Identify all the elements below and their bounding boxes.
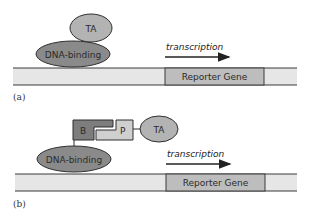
transcription-activator-a: TA [70, 14, 112, 42]
caption-a: (a) [13, 92, 25, 102]
panel-a: Reporter Gene DNA-binding TA transcripti… [13, 14, 297, 102]
dna-binding-label-b: DNA-binding [46, 155, 102, 165]
transcription-arrow-b: transcription [166, 149, 230, 164]
dna-binding-domain-a: DNA-binding [36, 41, 110, 67]
two-hybrid-diagram: Reporter Gene DNA-binding TA transcripti… [0, 0, 312, 217]
ta-label-b: TA [153, 125, 166, 135]
dna-binding-domain-b: DNA-binding [37, 146, 111, 172]
reporter-gene-b: Reporter Gene [166, 174, 265, 191]
transcription-label-a: transcription [166, 42, 224, 52]
caption-b: (b) [13, 199, 26, 209]
reporter-gene-a: Reporter Gene [165, 68, 264, 85]
ta-label-a: TA [85, 24, 98, 34]
transcription-activator-b: TA [140, 116, 178, 142]
reporter-gene-label-b: Reporter Gene [183, 178, 249, 188]
p-label: P [120, 126, 126, 136]
b-label: B [80, 126, 86, 136]
panel-b: Reporter Gene DNA-binding B P TA transcr… [13, 116, 297, 209]
reporter-gene-label-a: Reporter Gene [182, 72, 248, 82]
transcription-arrow-a: transcription [165, 42, 229, 57]
dna-binding-label-a: DNA-binding [45, 50, 101, 60]
transcription-label-b: transcription [167, 149, 225, 159]
